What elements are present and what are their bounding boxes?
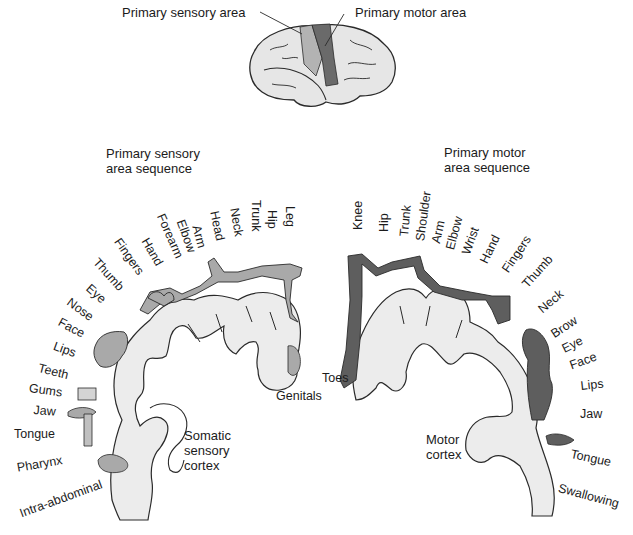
motor-label-lips: Lips xyxy=(580,378,604,393)
motor-label-jaw: Jaw xyxy=(580,408,602,421)
motor-sequence-title-line1: Primary motor xyxy=(444,145,526,161)
motor-label-hip: Hip xyxy=(378,213,391,232)
homunculus-diagram: Primary sensory area Primary motor area … xyxy=(0,0,633,535)
somatic-cortex-label-line1: Somatic xyxy=(184,428,231,444)
brain-inset-icon xyxy=(250,12,395,106)
somatic-cortex-label-line2: sensory xyxy=(184,443,230,459)
motor-cortex-label-line2: cortex xyxy=(426,447,461,463)
primary-sensory-area-label: Primary sensory area xyxy=(122,5,246,21)
motor-cortex-label-line1: Motor xyxy=(426,432,459,448)
sensory-label-tongue: Tongue xyxy=(14,428,55,441)
motor-label-toes: Toes xyxy=(322,372,348,385)
sensory-sequence-title-line2: area sequence xyxy=(106,161,192,177)
sensory-label-trunk: Trunk xyxy=(249,200,262,232)
sensory-label-genitals: Genitals xyxy=(276,390,322,403)
sensory-label-jaw: Jaw xyxy=(33,404,56,419)
motor-label-trunk: Trunk xyxy=(398,205,414,238)
motor-label-knee: Knee xyxy=(352,201,365,230)
somatic-cortex-label-line3: cortex xyxy=(184,458,219,474)
sensory-sequence-title-line1: Primary sensory xyxy=(106,146,200,162)
sensory-label-hip: Hip xyxy=(265,210,278,229)
motor-sequence-title-line2: area sequence xyxy=(444,160,530,176)
motor-cortex-section xyxy=(340,254,574,516)
primary-motor-area-label: Primary motor area xyxy=(355,5,466,21)
sensory-label-leg: Leg xyxy=(283,206,296,227)
